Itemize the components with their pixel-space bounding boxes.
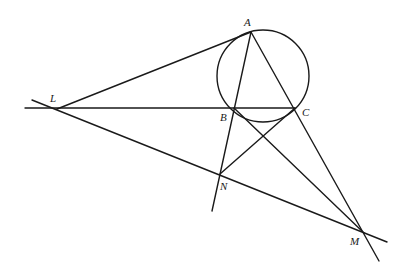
line-A-N: [212, 32, 251, 211]
line-B-M: [234, 108, 364, 233]
point-label-N: N: [219, 180, 228, 192]
point-label-L: L: [49, 92, 56, 104]
line-L-M: [32, 100, 387, 242]
geometry-diagram: ABCLNM: [0, 0, 412, 276]
point-label-A: A: [243, 16, 251, 28]
line-A-M: [251, 32, 379, 261]
line-C-N: [220, 108, 295, 174]
point-label-M: M: [349, 235, 360, 247]
point-label-B: B: [220, 111, 227, 123]
point-label-C: C: [302, 106, 310, 118]
